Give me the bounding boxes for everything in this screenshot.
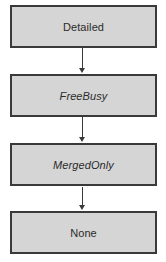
flowchart-node-none[interactable]: None: [10, 211, 157, 254]
flowchart-node-label: FreeBusy: [60, 90, 108, 102]
arrow-head-icon: [79, 68, 85, 73]
arrow-stem: [82, 48, 83, 69]
arrow-head-icon: [79, 137, 85, 142]
flowchart-node-label: Detailed: [63, 21, 104, 33]
flowchart-arrow-detailed-to-freebusy: [82, 48, 83, 74]
flowchart-node-mergedonly[interactable]: MergedOnly: [10, 143, 157, 186]
arrow-stem: [82, 187, 83, 206]
arrow-head-icon: [79, 205, 85, 210]
flowchart-arrow-freebusy-to-mergedonly: [82, 117, 83, 143]
flowchart-node-label: MergedOnly: [53, 159, 114, 171]
flowchart-node-detailed[interactable]: Detailed: [10, 5, 157, 48]
flowchart-node-label: None: [70, 227, 97, 239]
flowchart-diagram: Detailed FreeBusy MergedOnly None: [0, 0, 166, 262]
flowchart-node-freebusy[interactable]: FreeBusy: [10, 74, 157, 117]
arrow-stem: [82, 117, 83, 138]
flowchart-arrow-mergedonly-to-none: [82, 187, 83, 211]
